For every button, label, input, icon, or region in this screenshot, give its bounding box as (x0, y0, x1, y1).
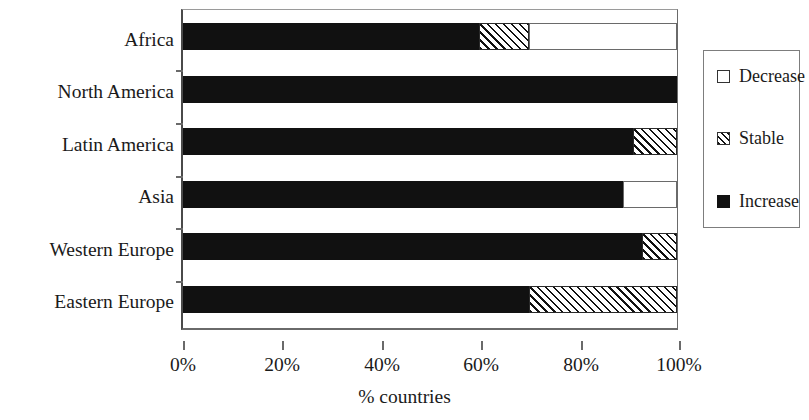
y-axis-tick-1 (176, 70, 183, 72)
x-axis-tick-20 (282, 341, 284, 350)
x-axis-tick-80 (581, 341, 583, 350)
legend-label-stable: Stable (739, 129, 784, 147)
hatched-square-icon (717, 132, 730, 145)
y-axis-label-north-america: North America (0, 82, 174, 102)
y-axis-tick-2 (176, 123, 183, 125)
bar-segment-increase (183, 23, 479, 50)
bar-segment-decrease (623, 181, 677, 208)
bar-segment-decrease (529, 23, 677, 50)
white-square-icon (717, 70, 730, 83)
bar-row-africa (183, 23, 677, 50)
stacked-bar-chart: Africa North America Latin America Asia … (0, 0, 809, 420)
y-axis-label-western-europe: Western Europe (0, 240, 174, 260)
x-axis-tick-100 (679, 341, 681, 350)
bar-row-north-america (183, 76, 677, 103)
bar-row-western-europe (183, 233, 677, 260)
x-axis-tick-40 (382, 341, 384, 350)
x-axis-title: % countries (0, 386, 809, 408)
bar-segment-stable (633, 128, 677, 155)
bar-segment-increase (183, 76, 677, 103)
bar-segment-increase (183, 128, 633, 155)
y-axis-label-eastern-europe: Eastern Europe (0, 292, 174, 312)
bar-segment-increase (183, 233, 642, 260)
x-axis-tick-0 (183, 341, 185, 350)
bar-segment-increase (183, 286, 529, 313)
y-axis-tick-5 (176, 281, 183, 283)
x-axis-tick-label-60: 60% (446, 354, 516, 376)
x-axis-tick-label-100: 100% (644, 354, 714, 376)
bar-segment-stable (642, 233, 677, 260)
legend-item-increase: Increase (717, 192, 799, 210)
plot-area: 0% 20% 40% 60% 80% 100% (181, 9, 678, 330)
legend-label-increase: Increase (739, 192, 799, 210)
legend-label-decrease: Decrease (739, 67, 805, 85)
y-axis-label-asia: Asia (0, 187, 174, 207)
legend-item-stable: Stable (717, 129, 784, 147)
legend-item-decrease: Decrease (717, 67, 805, 85)
y-axis-tick-4 (176, 228, 183, 230)
x-axis-tick-label-0: 0% (148, 354, 218, 376)
x-axis-tick-label-80: 80% (546, 354, 616, 376)
black-square-icon (717, 195, 730, 208)
bar-row-eastern-europe (183, 286, 677, 313)
bar-segment-stable (529, 286, 677, 313)
x-axis-tick-label-20: 20% (247, 354, 317, 376)
legend: Decrease Stable Increase (703, 50, 800, 228)
bar-segment-increase (183, 181, 623, 208)
x-axis-tick-label-40: 40% (347, 354, 417, 376)
bar-row-asia (183, 181, 677, 208)
y-axis-label-africa: Africa (0, 30, 174, 50)
y-axis-label-latin-america: Latin America (0, 135, 174, 155)
bar-segment-stable (479, 23, 528, 50)
x-axis-tick-60 (481, 341, 483, 350)
bar-row-latin-america (183, 128, 677, 155)
y-axis-tick-3 (176, 176, 183, 178)
